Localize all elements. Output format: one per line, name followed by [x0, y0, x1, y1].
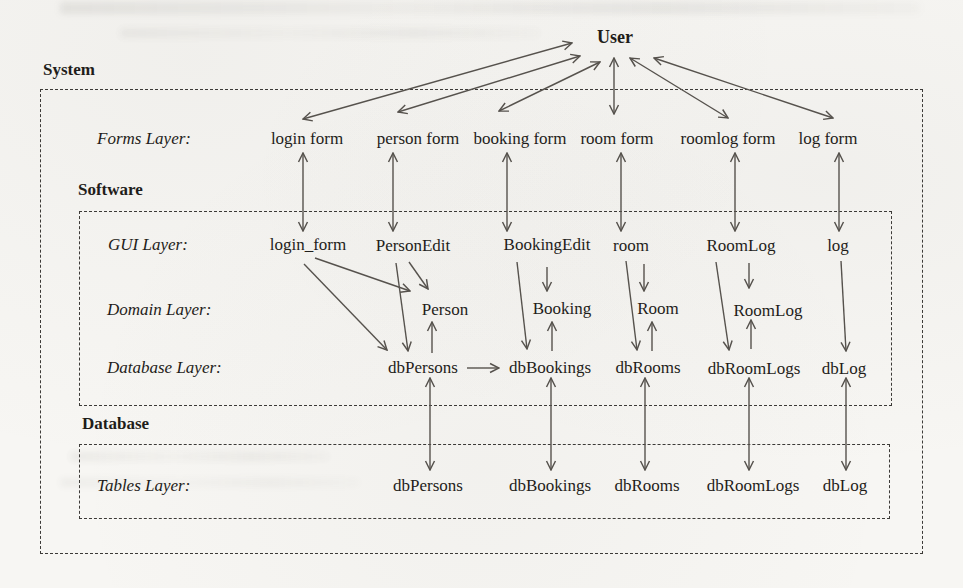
node-table-dbrooms: dbRooms: [614, 476, 679, 496]
node-gui-room: room: [613, 236, 649, 256]
node-db-dbrooms: dbRooms: [615, 358, 680, 378]
node-domain-room: Room: [637, 299, 679, 319]
database-layer-label: Database Layer:: [107, 358, 222, 378]
node-domain-booking: Booking: [533, 299, 592, 319]
scan-artifact: [120, 28, 540, 38]
node-db-dbroomlogs: dbRoomLogs: [708, 359, 801, 379]
node-gui-personedit: PersonEdit: [376, 236, 451, 256]
database-box-title: Database: [82, 414, 149, 434]
forms-layer-label: Forms Layer:: [97, 129, 191, 149]
node-forms-person-form: person form: [377, 129, 460, 149]
node-table-dblog: dbLog: [823, 476, 867, 496]
node-gui-log: log: [827, 236, 849, 256]
node-gui-login-form: login_form: [270, 235, 347, 255]
software-box-title: Software: [78, 180, 143, 200]
node-table-dbpersons: dbPersons: [393, 476, 463, 496]
node-forms-roomlog-form: roomlog form: [681, 129, 776, 149]
architecture-diagram: System Software Database Forms Layer: GU…: [0, 0, 963, 588]
gui-layer-label: GUI Layer:: [108, 235, 188, 255]
node-gui-bookingedit: BookingEdit: [504, 235, 591, 255]
node-table-dbroomlogs: dbRoomLogs: [707, 476, 800, 496]
node-table-dbbookings: dbBookings: [509, 476, 591, 496]
node-domain-person: Person: [422, 300, 468, 320]
scan-artifact: [60, 2, 920, 14]
node-db-dblog: dbLog: [822, 359, 866, 379]
tables-layer-label: Tables Layer:: [97, 476, 190, 496]
node-forms-login-form: login form: [271, 129, 343, 149]
node-forms-log-form: log form: [798, 129, 857, 149]
node-forms-room-form: room form: [580, 129, 653, 149]
node-user: User: [597, 27, 633, 48]
node-db-dbpersons: dbPersons: [388, 358, 458, 378]
node-gui-roomlog: RoomLog: [707, 236, 776, 256]
node-forms-booking-form: booking form: [473, 129, 566, 149]
domain-layer-label: Domain Layer:: [107, 300, 211, 320]
node-db-dbbookings: dbBookings: [509, 358, 591, 378]
system-box-title: System: [43, 60, 95, 80]
node-domain-roomlog: RoomLog: [734, 301, 803, 321]
